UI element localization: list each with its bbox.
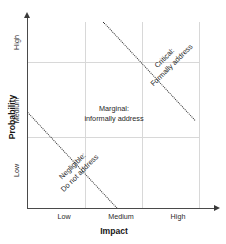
x-tick-medium: Medium bbox=[91, 212, 151, 221]
y-axis-title: Probability bbox=[7, 82, 17, 152]
zone-label-marginal: Marginal: informally address bbox=[59, 104, 169, 123]
gridline-horizontal-low-medium bbox=[28, 137, 200, 138]
x-tick-low: Low bbox=[34, 212, 94, 221]
gridline-vertical-right-edge bbox=[199, 22, 200, 208]
plot-area: Critical: Formally address Marginal: inf… bbox=[28, 22, 200, 208]
y-axis-arrow-icon bbox=[24, 12, 30, 18]
y-tick-high: High bbox=[12, 21, 21, 65]
y-tick-low: Low bbox=[12, 149, 21, 193]
x-axis-arrow-icon bbox=[214, 205, 220, 211]
clipped-caption-strip: (text clipped at top edge of screenshot) bbox=[0, 0, 226, 3]
zone-label-negligible: Negligible: Do not address bbox=[41, 135, 111, 205]
x-axis-line bbox=[27, 208, 215, 209]
zone-label-negligible-line1: Negligible: bbox=[41, 135, 104, 198]
x-axis-title: Impact bbox=[28, 226, 200, 236]
x-tick-high: High bbox=[148, 212, 208, 221]
zone-label-marginal-line1: Marginal: bbox=[59, 104, 169, 114]
zone-label-marginal-line2: informally address bbox=[59, 114, 169, 124]
y-axis-line bbox=[27, 17, 28, 208]
risk-matrix-figure: (text clipped at top edge of screenshot)… bbox=[0, 0, 226, 244]
